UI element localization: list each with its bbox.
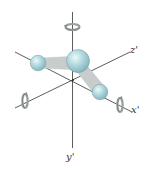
atom-left bbox=[30, 55, 46, 71]
atom-central bbox=[67, 50, 90, 73]
rotation-arrow-y-icon bbox=[64, 24, 80, 30]
molecule-diagram: z' x' y' bbox=[0, 0, 148, 170]
origin-point bbox=[72, 79, 74, 81]
z-axis-label: z' bbox=[129, 44, 138, 55]
y-axis-label: y' bbox=[65, 151, 74, 162]
rotation-arrow-z-icon bbox=[22, 92, 27, 108]
rotation-arrow-x-icon bbox=[117, 96, 122, 112]
atom-right bbox=[92, 84, 108, 100]
x-axis-label: x' bbox=[131, 104, 139, 115]
